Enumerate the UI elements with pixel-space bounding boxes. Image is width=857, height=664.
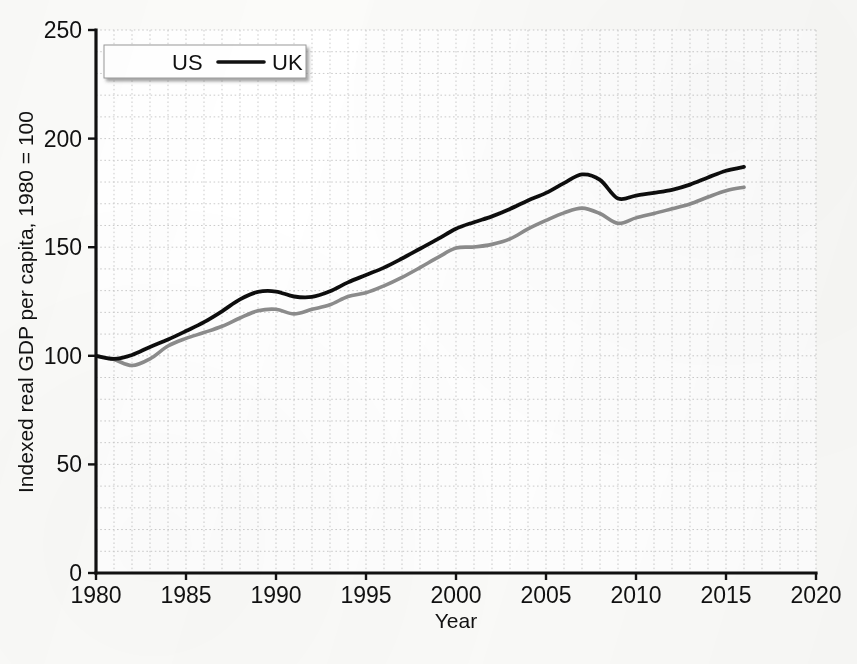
x-tick-label: 1985 — [160, 582, 211, 608]
chart-figure: 198019851990199520002005201020152020 050… — [0, 0, 857, 664]
y-tick-label: 100 — [44, 343, 82, 369]
chart-legend: US UK — [104, 45, 306, 78]
y-tick-label: 0 — [69, 560, 82, 586]
y-tick-label: 50 — [56, 451, 82, 477]
legend-label-us: US — [172, 50, 203, 75]
x-tick-label: 1990 — [250, 582, 301, 608]
y-axis-title: Indexed real GDP per capita, 1980 = 100 — [14, 111, 37, 493]
y-tick-label: 150 — [44, 234, 82, 260]
y-tick-label: 250 — [44, 17, 82, 43]
x-axis-title: Year — [435, 609, 477, 632]
x-tick-label: 2005 — [520, 582, 571, 608]
x-tick-label: 2020 — [790, 582, 841, 608]
x-tick-label: 2015 — [700, 582, 751, 608]
x-axis-ticks: 198019851990199520002005201020152020 — [70, 573, 841, 608]
x-tick-label: 2010 — [610, 582, 661, 608]
y-tick-label: 200 — [44, 126, 82, 152]
legend-label-uk: UK — [272, 50, 303, 75]
line-chart: 198019851990199520002005201020152020 050… — [0, 0, 857, 664]
plot-background — [96, 30, 816, 573]
x-tick-label: 2000 — [430, 582, 481, 608]
x-tick-label: 1995 — [340, 582, 391, 608]
